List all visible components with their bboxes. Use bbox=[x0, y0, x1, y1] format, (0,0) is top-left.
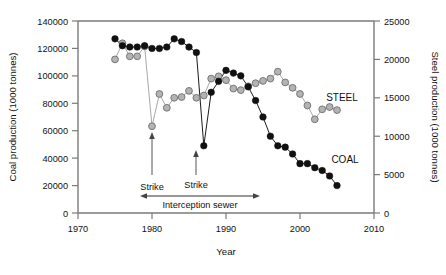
coal-data-point bbox=[141, 42, 148, 49]
coal-data-point bbox=[215, 78, 222, 85]
steel-series-line bbox=[115, 43, 337, 126]
coal-data-point bbox=[112, 36, 119, 43]
coal-data-point bbox=[289, 151, 296, 158]
coal-data-point bbox=[282, 144, 289, 151]
steel-data-point bbox=[200, 92, 207, 99]
steel-data-point bbox=[282, 79, 289, 86]
coal-data-point bbox=[334, 182, 341, 189]
left-tick-label-40000: 40000 bbox=[42, 154, 68, 164]
right-tick-label-20000: 20000 bbox=[384, 55, 410, 65]
strike-1-arrow-head bbox=[149, 132, 155, 139]
left-tick-label-60000: 60000 bbox=[42, 126, 68, 136]
coal-data-point bbox=[186, 44, 193, 51]
coal-data-point bbox=[304, 160, 311, 167]
coal-data-point bbox=[319, 167, 326, 174]
coal-series-label: COAL bbox=[331, 154, 359, 165]
steel-data-point bbox=[334, 107, 341, 114]
steel-data-point bbox=[274, 68, 281, 75]
x-tick-label-1990: 1990 bbox=[216, 224, 236, 234]
steel-data-point bbox=[304, 102, 311, 109]
steel-data-point bbox=[326, 104, 333, 111]
steel-data-point bbox=[267, 75, 274, 82]
right-tick-label-0: 0 bbox=[384, 209, 389, 219]
coal-data-point bbox=[245, 84, 252, 91]
steel-data-point bbox=[311, 116, 318, 123]
steel-series-label: STEEL bbox=[326, 92, 358, 103]
coal-data-point bbox=[171, 36, 178, 43]
right-tick-label-25000: 25000 bbox=[384, 17, 410, 27]
coal-data-point bbox=[201, 143, 208, 150]
right-tick-label-10000: 10000 bbox=[384, 132, 410, 142]
steel-data-point bbox=[126, 53, 133, 60]
coal-data-point bbox=[312, 164, 319, 171]
strike-2-label: Strike bbox=[184, 180, 208, 190]
coal-data-point bbox=[238, 73, 245, 80]
x-axis-ticks: 1970 1980 1990 2000 2010 bbox=[68, 213, 384, 234]
left-axis-title: Coal production (1000 tonnes) bbox=[7, 52, 18, 181]
coal-data-point bbox=[134, 44, 141, 51]
strike-2-arrow-head bbox=[193, 150, 199, 157]
axes-frame bbox=[78, 21, 374, 213]
annotation-strike-1: Strike bbox=[140, 132, 164, 192]
chart-plot-svg: 140000 120000 100000 80000 60000 40000 2… bbox=[0, 0, 446, 275]
right-axis-ticks: 25000 20000 15000 10000 5000 0 bbox=[374, 17, 410, 219]
steel-data-point bbox=[193, 94, 200, 101]
left-axis-ticks: 140000 120000 100000 80000 60000 40000 2… bbox=[37, 17, 78, 219]
steel-data-point bbox=[149, 123, 156, 130]
steel-data-point bbox=[186, 87, 193, 94]
steel-data-point bbox=[178, 94, 185, 101]
left-tick-label-20000: 20000 bbox=[42, 181, 68, 191]
coal-data-point bbox=[275, 143, 282, 150]
x-tick-label-2000: 2000 bbox=[290, 224, 310, 234]
coal-series-line bbox=[115, 39, 337, 186]
coal-line-path bbox=[115, 39, 337, 186]
right-axis-title: Steel production (1000 tonnes) bbox=[430, 51, 441, 182]
steel-data-point bbox=[319, 106, 326, 113]
steel-data-point bbox=[156, 91, 163, 98]
steel-data-point bbox=[223, 77, 230, 84]
steel-data-point bbox=[230, 85, 237, 92]
steel-data-point bbox=[208, 75, 215, 82]
coal-data-point bbox=[326, 173, 333, 180]
x-tick-label-2010: 2010 bbox=[364, 224, 384, 234]
x-axis-title: Year bbox=[216, 246, 236, 257]
coal-data-point bbox=[223, 67, 230, 74]
steel-series-points bbox=[112, 40, 341, 130]
steel-data-point bbox=[237, 87, 244, 94]
steel-data-point bbox=[289, 84, 296, 91]
steel-data-point bbox=[252, 80, 259, 87]
coal-data-point bbox=[252, 97, 259, 104]
x-tick-label-1970: 1970 bbox=[68, 224, 88, 234]
annotation-strike-2: Strike bbox=[184, 150, 208, 190]
steel-data-point bbox=[260, 78, 267, 85]
coal-data-point bbox=[127, 44, 134, 51]
left-tick-label-120000: 120000 bbox=[37, 44, 68, 54]
coal-data-point bbox=[297, 160, 304, 167]
coal-data-point bbox=[164, 44, 171, 51]
coal-data-point bbox=[208, 89, 215, 96]
coal-data-point bbox=[156, 45, 163, 52]
steel-data-point bbox=[134, 53, 141, 60]
interception-sewer-left-arrow bbox=[140, 193, 147, 199]
interception-sewer-right-arrow bbox=[253, 193, 260, 199]
coal-data-point bbox=[193, 49, 200, 56]
coal-data-point bbox=[119, 42, 126, 49]
chart-figure: 140000 120000 100000 80000 60000 40000 2… bbox=[0, 0, 446, 275]
interception-sewer-label: Interception sewer bbox=[162, 200, 237, 210]
steel-data-point bbox=[297, 91, 304, 98]
right-tick-label-5000: 5000 bbox=[384, 170, 404, 180]
coal-data-point bbox=[230, 70, 237, 77]
annotation-interception-sewer: Interception sewer bbox=[140, 193, 260, 210]
coal-data-point bbox=[178, 38, 185, 45]
strike-1-label: Strike bbox=[140, 182, 164, 192]
left-tick-label-80000: 80000 bbox=[42, 99, 68, 109]
coal-data-point bbox=[149, 45, 156, 52]
steel-data-point bbox=[171, 94, 178, 101]
coal-data-point bbox=[260, 114, 267, 121]
steel-data-point bbox=[163, 104, 170, 111]
right-tick-label-15000: 15000 bbox=[384, 93, 410, 103]
left-tick-label-0: 0 bbox=[63, 209, 68, 219]
left-tick-label-140000: 140000 bbox=[37, 17, 68, 27]
left-tick-label-100000: 100000 bbox=[37, 71, 68, 81]
steel-line-path bbox=[115, 43, 337, 126]
